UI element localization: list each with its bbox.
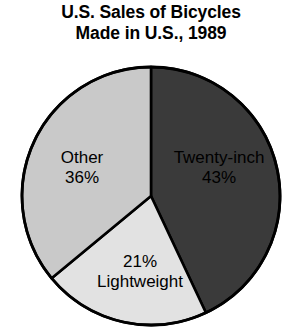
slice-label-other-name: Other <box>27 148 137 168</box>
slice-label-lightweight-value: 21% <box>62 252 218 272</box>
slice-label-other-value: 36% <box>27 168 137 188</box>
slice-label-other: Other 36% <box>27 148 137 188</box>
slice-label-lightweight-name: Lightweight <box>62 272 218 292</box>
slice-label-twenty-inch-value: 43% <box>152 168 286 188</box>
slice-label-twenty-inch: Twenty-inch 43% <box>152 148 286 188</box>
slice-label-twenty-inch-name: Twenty-inch <box>152 148 286 168</box>
slice-label-lightweight: 21% Lightweight <box>62 252 218 292</box>
pie-chart-figure: U.S. Sales of Bicycles Made in U.S., 198… <box>0 0 302 327</box>
